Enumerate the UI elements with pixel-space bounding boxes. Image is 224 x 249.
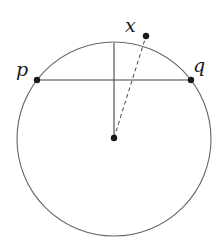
point-p bbox=[34, 77, 40, 83]
label-x: x bbox=[125, 14, 136, 36]
label-q: q bbox=[193, 54, 205, 76]
point-x bbox=[143, 33, 149, 39]
point-center bbox=[111, 135, 117, 141]
diagram-canvas: p q x bbox=[0, 0, 224, 249]
point-q bbox=[188, 77, 194, 83]
dashed-segment-to-x bbox=[114, 36, 146, 138]
label-p: p bbox=[16, 58, 28, 80]
